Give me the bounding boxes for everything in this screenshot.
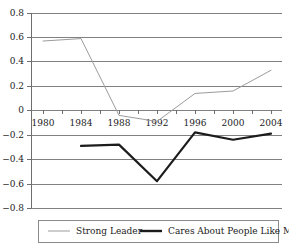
x-tick-label: 1992: [146, 118, 169, 128]
x-axis-tickmarks: [43, 110, 271, 114]
legend-label-cares-about-people: Cares About People Like Me: [168, 226, 289, 236]
chart-canvas: 0.8 0.6 0.4 0.2 0 −0.2 −0.4 −0.6 −0.8: [0, 0, 289, 246]
line-chart: 0.8 0.6 0.4 0.2 0 −0.2 −0.4 −0.6 −0.8: [0, 0, 289, 246]
y-tick-label: 0: [18, 105, 24, 115]
y-tick-label: −0.8: [2, 203, 24, 213]
y-tick-label: −0.4: [2, 154, 24, 164]
y-tick-labels: 0.8 0.6 0.4 0.2 0 −0.2 −0.4 −0.6 −0.8: [2, 8, 24, 213]
y-tick-label: −0.2: [2, 130, 24, 140]
x-tick-label: 1984: [70, 118, 93, 128]
series-line-cares-about-people: [81, 132, 271, 181]
series-line-strong-leader: [43, 39, 271, 122]
x-tick-label: 2000: [222, 118, 245, 128]
x-tick-labels: 1980 1984 1988 1992 1996 2000 2004: [32, 118, 283, 128]
y-tick-label: 0.2: [10, 81, 24, 91]
x-tick-label: 1996: [184, 118, 207, 128]
y-tick-label: 0.4: [10, 56, 25, 66]
legend: Strong Leader Cares About People Like Me: [38, 220, 289, 242]
legend-label-strong-leader: Strong Leader: [76, 226, 143, 236]
y-axis: [27, 13, 31, 208]
x-tick-label: 1988: [108, 118, 131, 128]
x-tick-label: 1980: [32, 118, 55, 128]
y-tick-label: 0.8: [10, 8, 25, 18]
y-tick-label: 0.6: [10, 32, 25, 42]
x-tick-label: 2004: [260, 118, 283, 128]
y-tick-label: −0.6: [2, 179, 24, 189]
